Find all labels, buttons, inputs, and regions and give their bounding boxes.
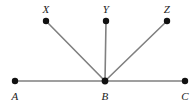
point-label-B: B xyxy=(102,91,109,102)
point-label-C: C xyxy=(181,91,189,102)
geometry-canvas xyxy=(0,0,196,107)
geometry-figure: X Y Z A B C xyxy=(0,0,196,107)
ray-BZ xyxy=(105,21,167,81)
point-dot-B xyxy=(102,78,109,85)
point-label-X: X xyxy=(43,4,50,15)
point-label-Y: Y xyxy=(103,4,109,15)
point-dot-C xyxy=(182,78,188,84)
point-dot-X xyxy=(43,18,49,24)
ray-BX xyxy=(46,21,105,81)
point-dot-Z xyxy=(164,18,170,24)
point-label-Z: Z xyxy=(164,4,170,15)
point-dot-Y xyxy=(103,18,109,24)
point-dot-A xyxy=(12,78,18,84)
point-label-A: A xyxy=(12,91,19,102)
ray-BY xyxy=(105,21,106,81)
